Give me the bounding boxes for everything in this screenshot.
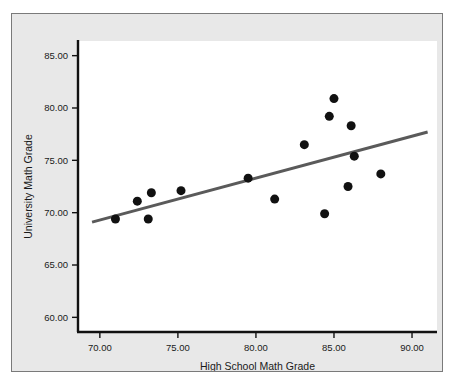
scatter-point [300, 140, 309, 149]
x-axis-title: High School Math Grade [200, 360, 315, 371]
x-tick-label: 85.00 [322, 342, 346, 353]
plot-panel [78, 41, 437, 332]
scatter-plot: 70.0075.0080.0085.0090.00 60.0065.0070.0… [12, 14, 442, 371]
x-tick-label: 90.00 [400, 342, 424, 353]
y-tick-label: 85.00 [44, 50, 68, 61]
y-tick-label: 75.00 [44, 155, 68, 166]
y-tick-label: 60.00 [44, 312, 68, 323]
y-tick-label: 70.00 [44, 207, 68, 218]
scatter-point [133, 197, 142, 206]
x-tick-label: 75.00 [166, 342, 190, 353]
scatter-point [320, 209, 329, 218]
y-tick-label: 80.00 [44, 102, 68, 113]
scatter-point [270, 195, 279, 204]
scatter-point [177, 186, 186, 195]
scatter-point [350, 152, 359, 161]
x-tick-label: 80.00 [244, 342, 268, 353]
scatter-point [344, 182, 353, 191]
y-axis-tick-labels: 60.0065.0070.0075.0080.0085.00 [44, 50, 68, 323]
scatter-point [376, 169, 385, 178]
scatter-point [147, 188, 156, 197]
scatter-point [347, 121, 356, 130]
scatter-point [329, 94, 338, 103]
x-tick-label: 70.00 [88, 342, 112, 353]
scatter-point [244, 174, 253, 183]
y-axis-title: University Math Grade [22, 134, 34, 239]
scatter-point [144, 214, 153, 223]
scatter-point [111, 214, 120, 223]
scatter-point [325, 112, 334, 121]
chart-figure: 70.0075.0080.0085.0090.00 60.0065.0070.0… [11, 13, 443, 372]
x-axis-tick-labels: 70.0075.0080.0085.0090.00 [88, 342, 424, 353]
y-tick-label: 65.00 [44, 259, 68, 270]
